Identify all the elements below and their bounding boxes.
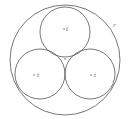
inner-circle-bottom-right xyxy=(65,49,115,99)
label-top: t xyxy=(66,26,69,32)
outer-circle xyxy=(10,5,120,115)
inner-circle-top xyxy=(40,7,90,57)
inner-circle-bottom-left xyxy=(15,49,65,99)
label-outer: r xyxy=(113,22,116,28)
center-dot-bottom-right xyxy=(90,74,91,75)
label-bottom-right: t xyxy=(94,72,97,78)
circles-diagram: t t t r xyxy=(0,0,129,119)
diagram-canvas: t t t r xyxy=(0,0,129,119)
label-bottom-left: t xyxy=(37,72,40,78)
center-dot-bottom-left xyxy=(33,74,34,75)
center-dot-top xyxy=(63,28,64,29)
center-point xyxy=(64,58,65,59)
